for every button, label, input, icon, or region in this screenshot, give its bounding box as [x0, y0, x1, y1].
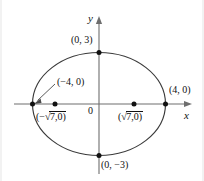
y-axis-arrowhead — [96, 16, 102, 24]
label-right-focus: (√7,0) — [118, 111, 143, 122]
label-left-focus: (−√7,0) — [36, 111, 66, 122]
point-left-focus — [53, 102, 58, 107]
leader-line-left-vertex — [38, 84, 56, 101]
origin-label: 0 — [88, 106, 93, 116]
point-right-vertex — [163, 102, 168, 107]
y-axis-label: y — [88, 13, 93, 24]
label-right-vertex: (4, 0) — [169, 85, 191, 95]
label-top-vertex: (0, 3) — [71, 35, 93, 45]
point-left-vertex — [30, 102, 35, 107]
label-right-focus-close: 7,0) — [126, 111, 143, 122]
label-left-focus-open: (− — [36, 111, 45, 122]
x-axis-arrowhead — [184, 101, 192, 107]
x-axis-label: x — [184, 110, 189, 121]
label-left-vertex: (−4, 0) — [57, 77, 84, 87]
point-top-vertex — [97, 50, 102, 55]
point-bottom-vertex — [97, 153, 102, 158]
leader-arrowhead-left-vertex — [34, 99, 42, 104]
ellipse-figure: y x 0 (0, 3) (0, −3) (4, 0) (−4, 0) (−√7… — [0, 0, 204, 181]
label-bottom-vertex: (0, −3) — [101, 160, 128, 170]
point-right-focus — [132, 102, 137, 107]
label-left-focus-close: 7,0) — [49, 111, 66, 122]
